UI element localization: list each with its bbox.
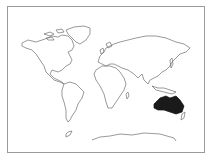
antarctica <box>92 133 176 141</box>
north-america <box>22 35 74 84</box>
indonesia <box>152 86 176 94</box>
map-canvas <box>0 0 210 157</box>
new-zealand <box>181 112 185 120</box>
world-map <box>0 0 210 157</box>
australia-highlighted <box>154 96 184 114</box>
africa <box>94 66 126 108</box>
greenland <box>66 26 90 44</box>
eurasia <box>98 36 190 84</box>
madagascar <box>126 92 129 99</box>
antarctic-peninsula <box>66 131 72 137</box>
south-america <box>62 82 84 122</box>
